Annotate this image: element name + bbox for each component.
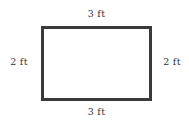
left-side-length-label: 2 ft xyxy=(4,57,34,67)
bottom-side-length-label: 3 ft xyxy=(41,107,152,117)
top-side-length-label: 3 ft xyxy=(41,9,152,19)
rectangle-dimension-diagram: 3 ft 2 ft 2 ft 3 ft xyxy=(0,0,189,124)
rectangle-outline xyxy=(41,26,152,101)
right-side-length-label: 2 ft xyxy=(157,57,187,67)
